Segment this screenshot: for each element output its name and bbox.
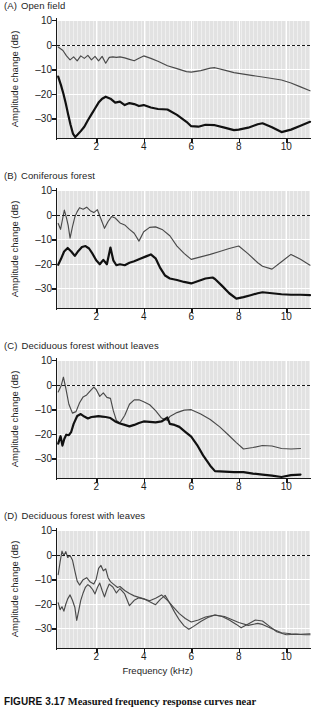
y-axis-tick	[52, 458, 57, 459]
panel-b-ytick-labels: 100–10–20–30	[24, 190, 52, 308]
y-tick-label: –20	[35, 598, 52, 609]
y-axis-tick	[52, 409, 57, 410]
y-tick-label: –10	[35, 404, 52, 415]
response-curve	[58, 583, 310, 635]
y-axis-line	[56, 188, 57, 310]
panel-a-title: Open field	[21, 0, 65, 11]
x-tick-label: 10	[281, 311, 292, 322]
x-tick-label: 6	[188, 311, 194, 322]
panel-a-ytick-labels: 100–10–20–30	[24, 20, 52, 138]
x-tick-label: 4	[141, 651, 147, 662]
panel-c-title: Deciduous forest without leaves	[22, 340, 159, 351]
x-tick-label: 8	[236, 311, 242, 322]
panel-d-xtick-labels: 246810	[57, 649, 310, 663]
response-curve	[58, 77, 310, 137]
y-axis-tick	[52, 118, 57, 119]
x-tick-label: 8	[236, 481, 242, 492]
panel-a-ylabel: Amplitude change (dB)	[9, 31, 20, 128]
panel-b-tag: (B)	[4, 170, 17, 181]
response-curve	[58, 377, 300, 449]
panel-b-label: (B)Coniferous forest	[4, 170, 95, 181]
y-axis-tick	[52, 190, 57, 191]
zero-reference-line	[57, 555, 310, 556]
x-tick-label: 6	[188, 481, 194, 492]
panel-d-tag: (D)	[4, 510, 18, 521]
y-axis-tick	[52, 385, 57, 386]
y-axis-tick	[52, 45, 57, 46]
panel-b: (B)Coniferous forest Amplitude change (d…	[0, 170, 315, 340]
y-tick-label: 10	[41, 525, 52, 536]
y-axis-tick	[52, 69, 57, 70]
y-axis-tick	[52, 628, 57, 629]
panel-a-xtick-labels: 246810	[57, 139, 310, 153]
response-curve	[58, 47, 310, 91]
panel-c: (C)Deciduous forest without leaves Ampli…	[0, 340, 315, 510]
figure-number: FIGURE 3.17	[4, 696, 65, 707]
panel-d-ytick-labels: 100–10–20–30	[24, 530, 52, 648]
y-axis-tick	[52, 604, 57, 605]
panel-a-plot	[57, 20, 310, 138]
y-axis-line	[56, 528, 57, 650]
y-tick-label: –30	[35, 283, 52, 294]
panel-b-plot	[57, 190, 310, 308]
panel-b-title: Coniferous forest	[21, 170, 95, 181]
y-axis-tick	[52, 264, 57, 265]
figure-caption: FIGURE 3.17 Measured frequency response …	[4, 695, 311, 709]
panel-c-label: (C)Deciduous forest without leaves	[4, 340, 159, 351]
panel-c-ytick-labels: 100–10–20–30	[24, 360, 52, 478]
panel-a: (A)Open field Amplitude change (dB) 100–…	[0, 0, 315, 170]
x-tick-label: 6	[188, 651, 194, 662]
x-tick-label: 4	[141, 311, 147, 322]
panel-d-ylabel: Amplitude change (dB)	[9, 541, 20, 638]
y-tick-label: –20	[35, 88, 52, 99]
x-tick-label: 2	[93, 141, 99, 152]
y-axis-tick	[52, 555, 57, 556]
y-axis-tick	[52, 239, 57, 240]
zero-reference-line	[57, 215, 310, 216]
panel-c-tag: (C)	[4, 340, 18, 351]
y-tick-label: –20	[35, 258, 52, 269]
y-axis-tick	[52, 434, 57, 435]
x-tick-label: 2	[93, 311, 99, 322]
panel-b-xtick-labels: 246810	[57, 309, 310, 323]
x-tick-label: 10	[281, 651, 292, 662]
panel-d-title: Deciduous forest with leaves	[22, 510, 146, 521]
y-tick-label: –10	[35, 574, 52, 585]
y-axis-line	[56, 18, 57, 140]
y-tick-label: 10	[41, 15, 52, 26]
panel-c-xtick-labels: 246810	[57, 479, 310, 493]
panel-c-ylabel: Amplitude change (dB)	[9, 371, 20, 468]
panel-a-label: (A)Open field	[4, 0, 65, 11]
y-axis-tick	[52, 215, 57, 216]
x-tick-label: 6	[188, 141, 194, 152]
panel-c-plot	[57, 360, 310, 478]
panel-b-curves	[57, 190, 310, 308]
y-axis-tick	[52, 530, 57, 531]
y-axis-tick	[52, 579, 57, 580]
panel-d-curves	[57, 530, 310, 648]
y-tick-label: –30	[35, 113, 52, 124]
x-tick-label: 10	[281, 481, 292, 492]
x-tick-label: 10	[281, 141, 292, 152]
figure-3-17: (A)Open field Amplitude change (dB) 100–…	[0, 0, 315, 710]
x-axis-title: Frequency (kHz)	[0, 665, 315, 676]
panel-a-curves	[57, 20, 310, 138]
y-axis-tick	[52, 360, 57, 361]
y-tick-label: –20	[35, 428, 52, 439]
x-tick-label: 8	[236, 141, 242, 152]
y-axis-tick	[52, 20, 57, 21]
panel-d-label: (D)Deciduous forest with leaves	[4, 510, 145, 521]
y-tick-label: 10	[41, 185, 52, 196]
panel-a-tag: (A)	[4, 0, 17, 11]
zero-reference-line	[57, 385, 310, 386]
zero-reference-line	[57, 45, 310, 46]
y-tick-label: –30	[35, 453, 52, 464]
y-axis-tick	[52, 288, 57, 289]
y-axis-line	[56, 358, 57, 480]
x-tick-label: 8	[236, 651, 242, 662]
x-tick-label: 2	[93, 651, 99, 662]
figure-caption-text: Measured frequency response curves near	[68, 696, 256, 707]
panel-b-ylabel: Amplitude change (dB)	[9, 201, 20, 298]
x-tick-label: 4	[141, 481, 147, 492]
y-tick-label: –30	[35, 623, 52, 634]
